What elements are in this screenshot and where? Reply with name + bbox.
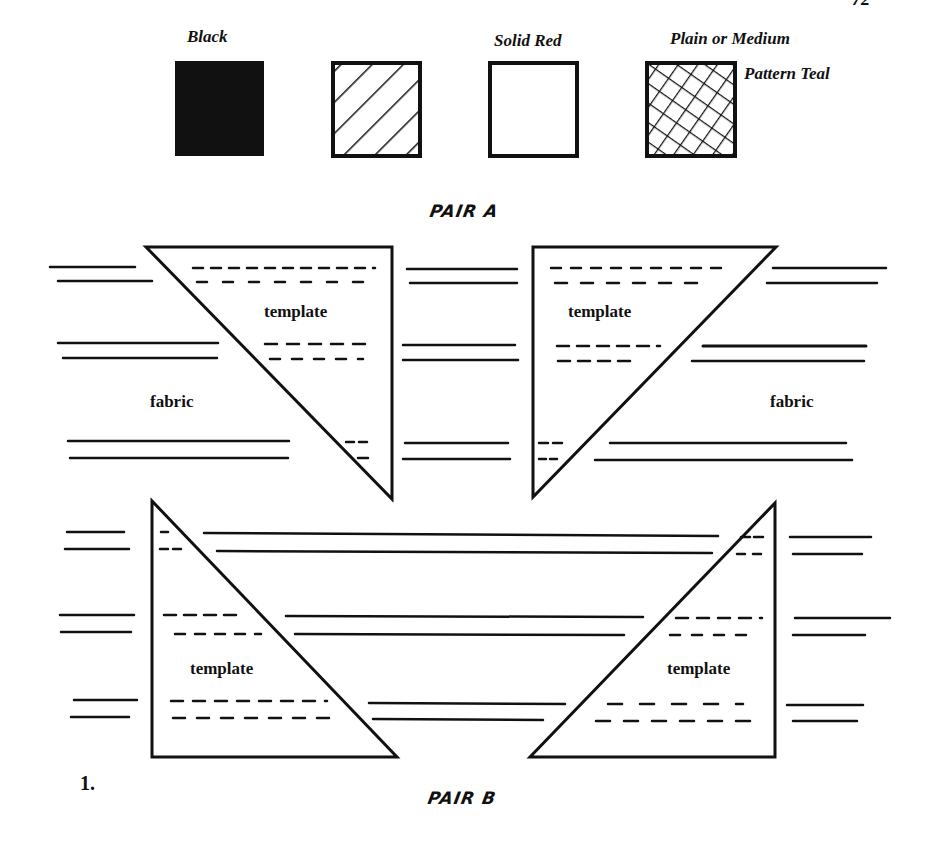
pair-a-right-fabric-label: fabric (770, 392, 813, 412)
pair-a-left-fabric-label: fabric (150, 392, 193, 412)
swatch-white (490, 63, 577, 156)
pair-a-left-template-label: template (264, 302, 327, 322)
pair-a-right-template-label: template (568, 302, 631, 322)
pair-b-left-template-label: template (190, 659, 253, 679)
pair-b-right-template (530, 503, 775, 757)
swatch-black (175, 61, 264, 156)
pair-b-title: PAIR B (426, 788, 498, 808)
pair-a-left-template (146, 247, 392, 499)
legend-label-solid-red: Solid Red (494, 31, 562, 51)
swatch-diagonal-hatch (333, 63, 420, 156)
pair-a-title: PAIR A (428, 201, 500, 221)
quilt-template-diagram (0, 0, 928, 855)
page-number: 72 (852, 0, 870, 10)
swatch-crosshatch (647, 63, 735, 156)
legend-label-plain-medium: Plain or Medium (670, 29, 790, 49)
legend-swatches (175, 61, 735, 156)
pair-b-right-template-label: template (667, 659, 730, 679)
legend-label-black: Black (187, 27, 228, 47)
legend-label-pattern-teal: Pattern Teal (744, 64, 830, 84)
figure-number: 1. (80, 772, 95, 795)
